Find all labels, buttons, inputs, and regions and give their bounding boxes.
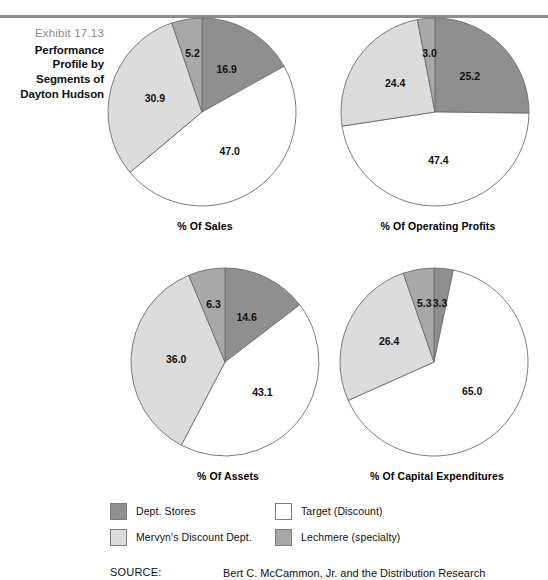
exhibit-title-line-4: Dayton Hudson: [0, 87, 104, 102]
pie-svg: 3.365.026.45.3: [337, 262, 537, 462]
slice-value-label: 43.1: [252, 386, 273, 398]
slice-value-label: 25.2: [460, 70, 481, 82]
slice-value-label: 3.3: [433, 297, 448, 309]
legend-label: Lechmere (specialty): [301, 531, 400, 543]
pie-slice: [435, 18, 529, 113]
legend-column-right: Target (Discount)Lechmere (specialty): [275, 500, 400, 552]
pie-caption: % Of Operating Profits: [338, 220, 538, 232]
pie-svg: 14.643.136.06.3: [128, 262, 328, 462]
slice-value-label: 5.3: [417, 297, 432, 309]
slice-value-label: 47.4: [428, 154, 449, 166]
exhibit-title-line-3: Segments of: [0, 72, 104, 87]
exhibit-title-line-1: Performance: [0, 43, 104, 58]
slice-value-label: 65.0: [462, 385, 483, 397]
exhibit-title-block: Exhibit 17.13 Performance Profile by Seg…: [0, 26, 104, 102]
pie-caption: % Of Sales: [105, 220, 305, 232]
slice-value-label: 3.0: [422, 47, 437, 59]
legend-swatch-mervyns: [110, 529, 127, 546]
slice-value-label: 5.2: [185, 47, 200, 59]
legend-swatch-target: [275, 503, 292, 520]
exhibit-title-line-2: Profile by: [0, 57, 104, 72]
slice-value-label: 6.3: [206, 298, 221, 310]
source-label: SOURCE:: [110, 566, 223, 578]
legend-item: Lechmere (specialty): [275, 526, 400, 548]
source-text: Bert C. McCammon, Jr. and the Distributi…: [223, 566, 485, 580]
slice-value-label: 30.9: [145, 92, 166, 104]
legend-item: Target (Discount): [275, 500, 400, 522]
pie-chart-assets: 14.643.136.06.3% Of Assets: [128, 262, 328, 487]
legend-label: Dept. Stores: [136, 505, 196, 517]
pie-chart-capital-expenditures: 3.365.026.45.3% Of Capital Expenditures: [337, 262, 537, 487]
slice-value-label: 26.4: [379, 335, 400, 347]
slice-value-label: 47.0: [219, 145, 240, 157]
pie-caption: % Of Capital Expenditures: [337, 470, 537, 482]
legend-column-left: Dept. StoresMervyn's Discount Dept.: [110, 500, 252, 552]
legend-label: Target (Discount): [301, 505, 383, 517]
source-row: SOURCE: Bert C. McCammon, Jr. and the Di…: [110, 566, 548, 580]
legend-swatch-dept-stores: [110, 503, 127, 520]
pie-chart-sales: 16.947.030.95.2% Of Sales: [105, 12, 305, 237]
exhibit-figure: Exhibit 17.13 Performance Profile by Seg…: [0, 0, 548, 580]
slice-value-label: 14.6: [236, 311, 257, 323]
slice-value-label: 24.4: [385, 77, 406, 89]
pie-caption: % Of Assets: [128, 470, 328, 482]
pie-svg: 16.947.030.95.2: [105, 12, 305, 212]
slice-value-label: 36.0: [166, 353, 187, 365]
pie-chart-operating-profits: 25.247.424.43.0% Of Operating Profits: [338, 12, 538, 237]
legend-swatch-lechmere: [275, 529, 292, 546]
pie-svg: 25.247.424.43.0: [338, 12, 538, 212]
legend-item: Mervyn's Discount Dept.: [110, 526, 252, 548]
legend-label: Mervyn's Discount Dept.: [136, 531, 252, 543]
exhibit-number: Exhibit 17.13: [0, 26, 104, 41]
legend-item: Dept. Stores: [110, 500, 252, 522]
slice-value-label: 16.9: [216, 63, 237, 75]
